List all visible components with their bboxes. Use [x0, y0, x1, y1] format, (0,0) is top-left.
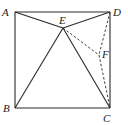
- segment-AE: [15, 12, 63, 28]
- geometry-diagram: ADBCEF: [0, 0, 128, 125]
- point-labels: ADBCEF: [1, 6, 121, 124]
- point-label-B: B: [3, 102, 10, 114]
- point-label-C: C: [103, 112, 111, 124]
- point-label-E: E: [58, 14, 66, 26]
- segment-BE: [15, 28, 63, 108]
- solid-lines: [15, 12, 110, 108]
- segment-DE: [63, 12, 110, 28]
- point-label-D: D: [112, 6, 121, 18]
- point-label-A: A: [1, 6, 9, 18]
- dashed-lines: [63, 12, 110, 108]
- dashed-segment-EF: [63, 28, 99, 55]
- point-label-F: F: [101, 48, 109, 60]
- dashed-segment-FC: [99, 55, 110, 108]
